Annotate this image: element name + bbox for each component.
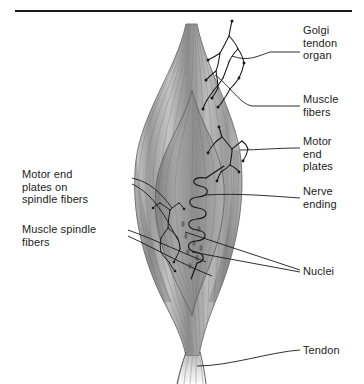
leader-tendon <box>197 350 300 366</box>
label-golgi-tendon-organ: Golgi tendon organ <box>303 24 361 62</box>
label-motor-end-plates: Motor end plates <box>303 135 361 173</box>
label-nuclei: Nuclei <box>303 265 361 278</box>
leader-motor-end-plates <box>240 148 300 150</box>
leader-muscle-fibers <box>215 75 300 106</box>
bottom-tendon <box>177 352 206 384</box>
figure-canvas: Golgi tendon organ Muscle fibers Motor e… <box>0 0 364 384</box>
label-muscle-spindle-fibers: Muscle spindle fibers <box>22 223 127 248</box>
label-muscle-fibers: Muscle fibers <box>303 93 361 118</box>
label-motor-end-plates-on-spindle-fibers: Motor end plates on spindle fibers <box>22 168 132 206</box>
label-nerve-ending: Nerve ending <box>303 185 361 210</box>
label-tendon: Tendon <box>303 344 361 357</box>
